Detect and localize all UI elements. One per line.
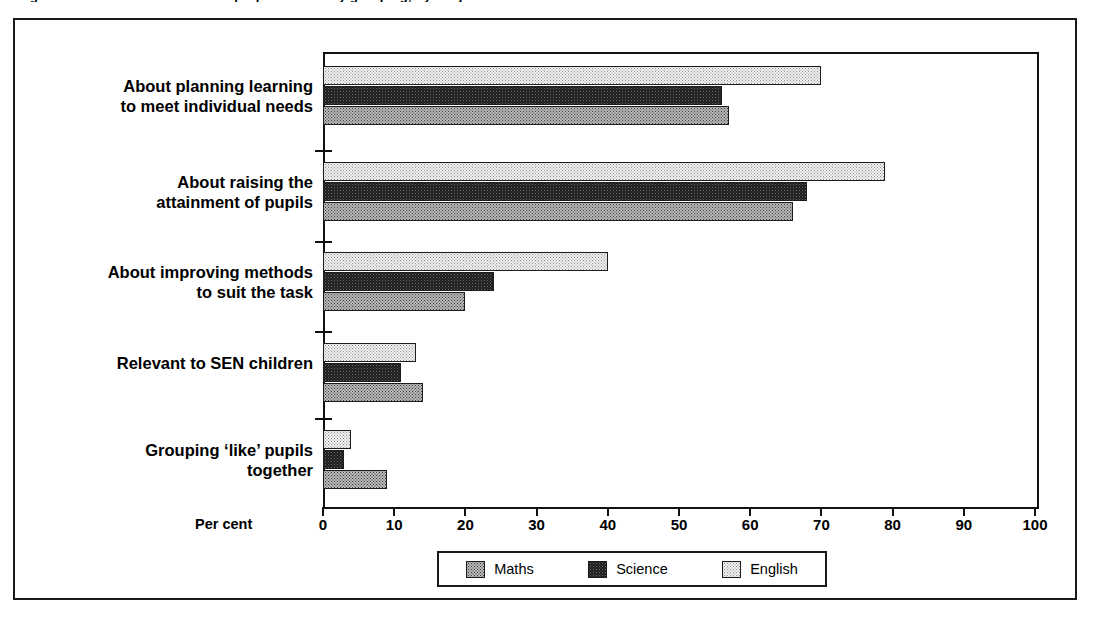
legend: Maths Science English — [437, 551, 827, 587]
x-tick-60 — [749, 507, 751, 516]
legend-item-english: English — [722, 561, 798, 578]
bar-maths-2 — [323, 292, 465, 311]
bar-science-2 — [323, 272, 494, 291]
category-label-4: Grouping ‘like’ pupils together — [13, 440, 313, 480]
x-tick-80 — [892, 507, 894, 516]
x-axis-label: Per cent — [195, 516, 252, 532]
x-tick-30 — [536, 507, 538, 516]
bar-maths-3 — [323, 383, 423, 402]
x-tick-0 — [322, 507, 324, 516]
category-label-3: Relevant to SEN children — [13, 353, 313, 373]
bar-english-0 — [323, 66, 821, 85]
x-tick-70 — [820, 507, 822, 516]
figure-caption: Figure 3.1 Teachers' views on the purpos… — [18, 0, 718, 2]
x-tick-label-10: 10 — [386, 516, 403, 533]
legend-item-science: Science — [588, 561, 668, 578]
bar-science-1 — [323, 182, 807, 201]
x-tick-label-60: 60 — [742, 516, 759, 533]
bar-english-3 — [323, 343, 416, 362]
bar-maths-0 — [323, 106, 729, 125]
category-separator-2 — [315, 331, 332, 333]
category-separator-0 — [315, 150, 332, 152]
x-tick-label-50: 50 — [671, 516, 688, 533]
bar-english-1 — [323, 162, 885, 181]
x-tick-10 — [393, 507, 395, 516]
bar-science-4 — [323, 450, 344, 469]
bar-maths-1 — [323, 202, 793, 221]
bar-english-2 — [323, 252, 608, 271]
category-separator-1 — [315, 241, 332, 243]
x-tick-label-90: 90 — [955, 516, 972, 533]
x-tick-20 — [464, 507, 466, 516]
category-label-0: About planning learning to meet individu… — [13, 76, 313, 116]
legend-label-english: English — [750, 561, 798, 577]
legend-swatch-english-icon — [722, 561, 741, 578]
x-tick-label-70: 70 — [813, 516, 830, 533]
x-tick-90 — [963, 507, 965, 516]
legend-label-maths: Maths — [494, 561, 534, 577]
x-tick-label-0: 0 — [319, 516, 327, 533]
x-tick-label-30: 30 — [528, 516, 545, 533]
x-tick-50 — [678, 507, 680, 516]
legend-swatch-science-icon — [588, 561, 607, 578]
x-axis-line — [323, 507, 1037, 509]
x-tick-label-40: 40 — [599, 516, 616, 533]
x-tick-40 — [607, 507, 609, 516]
bar-maths-4 — [323, 470, 387, 489]
legend-label-science: Science — [616, 561, 668, 577]
x-tick-label-20: 20 — [457, 516, 474, 533]
bar-english-4 — [323, 430, 351, 449]
bar-science-3 — [323, 363, 401, 382]
legend-swatch-maths-icon — [466, 561, 485, 578]
x-tick-label-100: 100 — [1022, 516, 1047, 533]
bar-science-0 — [323, 86, 722, 105]
category-label-2: About improving methods to suit the task — [13, 262, 313, 302]
x-tick-label-80: 80 — [884, 516, 901, 533]
category-separator-3 — [315, 418, 332, 420]
x-tick-100 — [1034, 507, 1036, 516]
legend-item-maths: Maths — [466, 561, 534, 578]
category-label-1: About raising the attainment of pupils — [13, 172, 313, 212]
figure-container: Figure 3.1 Teachers' views on the purpos… — [0, 0, 1094, 617]
